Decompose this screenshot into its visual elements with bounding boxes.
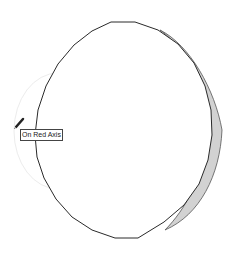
pencil-cursor-icon [14, 119, 23, 129]
model-drawing [0, 0, 234, 254]
modeling-viewport[interactable]: On Red Axis [0, 0, 234, 254]
inference-tooltip: On Red Axis [20, 129, 63, 141]
